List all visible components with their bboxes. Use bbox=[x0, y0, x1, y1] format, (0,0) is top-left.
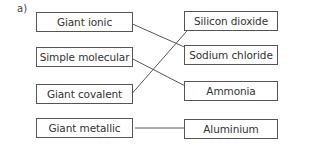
right-box-aluminium[interactable]: Aluminium bbox=[184, 119, 278, 139]
left-box-giant-covalent[interactable]: Giant covalent bbox=[36, 84, 133, 104]
left-box-giant-metallic[interactable]: Giant metallic bbox=[36, 118, 133, 138]
right-box-silicon-dioxide[interactable]: Silicon dioxide bbox=[184, 11, 278, 31]
left-box-simple-molecular[interactable]: Simple molecular bbox=[36, 47, 133, 67]
left-box-giant-ionic[interactable]: Giant ionic bbox=[36, 12, 133, 32]
right-box-ammonia[interactable]: Ammonia bbox=[184, 81, 278, 101]
right-box-sodium-chloride[interactable]: Sodium chloride bbox=[184, 45, 278, 65]
